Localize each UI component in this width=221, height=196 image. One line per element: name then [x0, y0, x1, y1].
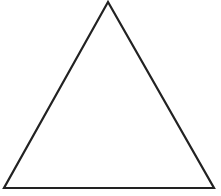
diagram-canvas — [0, 0, 221, 196]
triangle-shape — [4, 2, 214, 188]
